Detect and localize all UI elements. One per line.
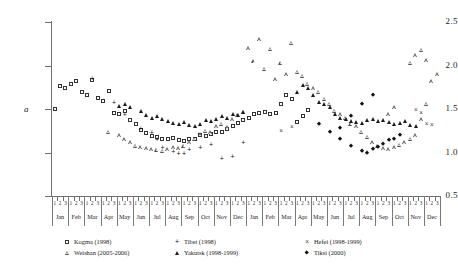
legend-label: Yakutsk (1998-1999): [184, 247, 238, 258]
y-tick: [45, 109, 51, 110]
data-point: [279, 61, 283, 65]
data-point: [371, 117, 375, 121]
x-month-label: Jul: [343, 213, 359, 221]
data-point: [274, 111, 278, 115]
data-point: [144, 113, 148, 117]
data-point: [425, 102, 429, 106]
data-point: [198, 122, 202, 126]
data-point: [376, 119, 380, 123]
data-point: +: [123, 111, 127, 118]
x-month-label: Jul: [149, 213, 165, 221]
data-point: [150, 116, 154, 120]
data-point: +: [220, 154, 224, 161]
data-point: [231, 124, 235, 128]
open-square-icon: [60, 236, 74, 247]
data-point: [80, 90, 84, 94]
data-point: [117, 104, 121, 108]
y-tick: [45, 22, 51, 23]
data-point: [241, 118, 245, 122]
data-point: [177, 138, 181, 142]
data-point: ×: [279, 126, 283, 133]
data-point: [101, 99, 105, 103]
data-point: [123, 137, 127, 141]
data-point: [128, 105, 132, 109]
data-point: [414, 133, 418, 137]
data-point: [187, 140, 191, 144]
data-point: [247, 116, 251, 120]
data-point: [128, 140, 132, 144]
data-point: ×: [419, 109, 423, 116]
data-point: [295, 70, 299, 74]
data-point: [117, 112, 121, 116]
data-point: [139, 145, 143, 149]
data-point: [349, 119, 353, 123]
data-point: +: [90, 74, 94, 81]
data-point: [301, 74, 305, 78]
data-point: [155, 114, 159, 118]
data-point: [160, 117, 164, 121]
data-point: [263, 110, 267, 114]
data-point: [171, 121, 175, 125]
data-point: +: [139, 125, 143, 132]
x-month-label: Nov: [214, 213, 230, 221]
data-point: [408, 61, 412, 65]
data-point: [414, 53, 418, 57]
data-point: [85, 93, 89, 97]
x-month-label: Dec: [424, 213, 440, 221]
x-month-label: Jan: [246, 213, 262, 221]
data-point: [306, 108, 310, 112]
data-point: [360, 130, 364, 134]
data-point: +: [171, 147, 175, 154]
data-point: [155, 148, 159, 152]
data-point: [236, 121, 240, 125]
data-point: [160, 137, 164, 141]
data-point: [187, 123, 191, 127]
x-month-label: Apr: [295, 213, 311, 221]
plus-icon: +: [170, 236, 184, 247]
x-month-separator: [440, 196, 441, 226]
data-point: [139, 109, 143, 113]
legend-item-hefei: × Hefei (1998-1999): [300, 236, 440, 247]
data-point: [247, 46, 251, 50]
data-point: [214, 124, 218, 128]
data-point: [268, 47, 272, 51]
data-point: [408, 137, 412, 141]
data-point: +: [198, 144, 202, 151]
data-point: [107, 130, 111, 134]
data-point: [214, 117, 218, 121]
x-month-label: Nov: [408, 213, 424, 221]
x-month-label: Jun: [327, 213, 343, 221]
data-point: [387, 120, 391, 124]
x-month-label: Aug: [359, 213, 375, 221]
data-point: [365, 135, 369, 139]
legend-item-yakutsk: Yakutsk (1998-1999): [170, 247, 300, 258]
data-point: +: [209, 140, 213, 147]
chart-legend: Kogma (1998) + Tibet (1998) × Hefei (199…: [60, 236, 452, 258]
data-point: [371, 140, 375, 144]
data-point: [74, 79, 78, 83]
filled-triangle-icon: [170, 247, 184, 258]
data-point: [144, 146, 148, 150]
data-point: [381, 118, 385, 122]
x-month-label: Aug: [165, 213, 181, 221]
data-point: +: [155, 136, 159, 143]
x-month-label: Oct: [392, 213, 408, 221]
x-month-label: May: [311, 213, 327, 221]
data-point: [365, 118, 369, 122]
data-point: [225, 125, 229, 129]
data-point: [220, 114, 224, 118]
x-month-label: Jan: [52, 213, 68, 221]
data-point: [430, 79, 434, 83]
data-point: [177, 122, 181, 126]
data-point: [209, 130, 213, 134]
data-point: [166, 119, 170, 123]
data-point: [220, 122, 224, 126]
data-point: [182, 144, 186, 148]
legend-label: Hefei (1998-1999): [314, 236, 362, 247]
data-point: [435, 72, 439, 76]
data-point: [392, 122, 396, 126]
data-point: [322, 102, 326, 106]
x-month-label: May: [117, 213, 133, 221]
x-month-label: Mar: [278, 213, 294, 221]
data-point: [403, 140, 407, 144]
